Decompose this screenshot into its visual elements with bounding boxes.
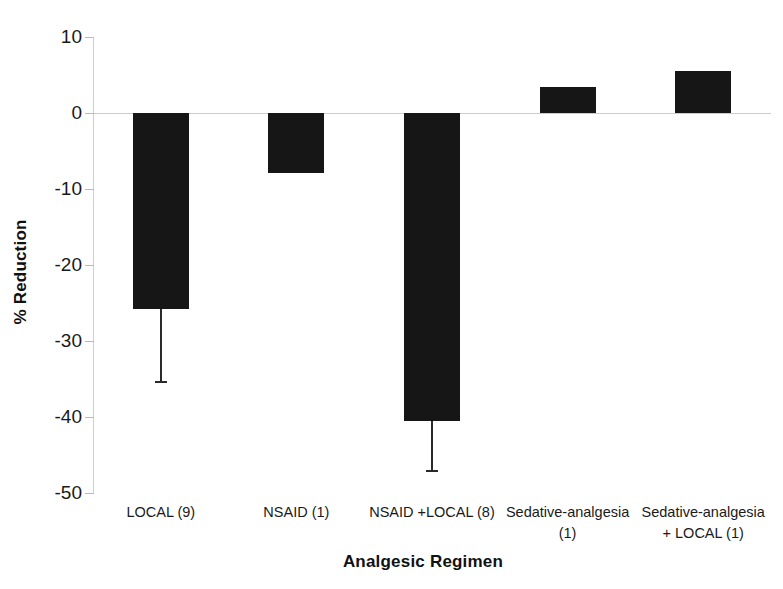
x-tick-label: LOCAL (9) bbox=[88, 502, 234, 523]
x-tick-label: Sedative-analgesia+ LOCAL (1) bbox=[630, 502, 776, 544]
y-tick-mark bbox=[85, 189, 94, 190]
y-axis-tick-labels: 100-10-20-30-40-50 bbox=[26, 0, 82, 589]
y-tick-label: -20 bbox=[26, 255, 82, 274]
bar bbox=[268, 113, 324, 173]
plot-area bbox=[93, 0, 771, 493]
x-tick-label: Sedative-analgesia(1) bbox=[495, 502, 641, 544]
y-tick-mark bbox=[85, 265, 94, 266]
y-tick-mark bbox=[85, 417, 94, 418]
x-tick-label-line: (1) bbox=[495, 523, 641, 544]
x-tick-label-line: LOCAL (9) bbox=[88, 502, 234, 523]
y-tick-label: 0 bbox=[26, 103, 82, 122]
y-tick-mark bbox=[85, 493, 94, 494]
y-tick-label: 10 bbox=[26, 27, 82, 46]
x-tick-label-line: Sedative-analgesia bbox=[495, 502, 641, 523]
bar bbox=[404, 113, 460, 421]
x-tick-label-line: NSAID (1) bbox=[224, 502, 370, 523]
bar bbox=[133, 113, 189, 309]
bar bbox=[675, 71, 731, 113]
bar bbox=[540, 87, 596, 113]
x-tick-label: NSAID +LOCAL (8) bbox=[359, 502, 505, 523]
y-tick-label: -50 bbox=[26, 483, 82, 502]
x-tick-label-line: NSAID +LOCAL (8) bbox=[359, 502, 505, 523]
x-tick-label-line: Sedative-analgesia bbox=[630, 502, 776, 523]
x-tick-label: NSAID (1) bbox=[224, 502, 370, 523]
y-tick-label: -30 bbox=[26, 331, 82, 350]
error-bar-cap bbox=[426, 470, 438, 472]
y-tick-label: -40 bbox=[26, 407, 82, 426]
x-tick-label-line: + LOCAL (1) bbox=[630, 523, 776, 544]
y-tick-mark bbox=[85, 37, 94, 38]
bar-chart-figure: % Reduction 100-10-20-30-40-50 LOCAL (9)… bbox=[0, 0, 783, 589]
error-bar-stem bbox=[160, 309, 162, 380]
y-tick-mark bbox=[85, 341, 94, 342]
y-tick-label: -10 bbox=[26, 179, 82, 198]
x-axis-title: Analgesic Regimen bbox=[93, 552, 753, 572]
error-bar-cap bbox=[155, 381, 167, 383]
error-bar-stem bbox=[431, 421, 433, 470]
y-tick-mark bbox=[85, 113, 94, 114]
